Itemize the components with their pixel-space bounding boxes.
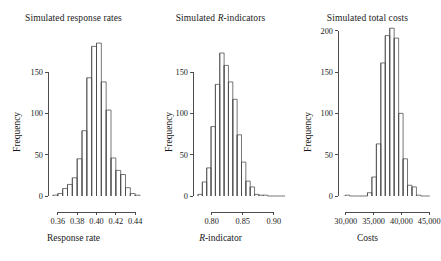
y-axis-label-response-rates: Frequency: [12, 112, 22, 152]
x-axis-label-r-indicators: R-indicator: [147, 233, 294, 243]
y-axis-tick-label: 150: [321, 68, 333, 77]
x-axis-tick-label: 40,000: [390, 217, 413, 226]
x-axis-label-total-costs: Costs: [294, 233, 441, 243]
y-axis-tick-label: 50: [325, 151, 333, 160]
x-axis-tick-label: 30,000: [334, 217, 357, 226]
x-axis-tick-label: 0.85: [235, 217, 250, 226]
y-axis-tick-label: 0: [184, 192, 188, 201]
x-axis-tick-label: 0.80: [204, 217, 219, 226]
y-axis-tick-label: 0: [39, 192, 43, 201]
plot-area-total-costs: 05010015020030,00035,00040,00045,000: [294, 0, 441, 261]
y-axis-label-total-costs: Frequency: [303, 112, 313, 152]
y-axis-tick-label: 150: [176, 68, 188, 77]
y-axis-tick-label: 50: [180, 151, 188, 160]
y-axis-tick-label: 100: [321, 109, 333, 118]
y-axis-tick-label: 150: [31, 68, 43, 77]
chart-panel-r-indicators: Simulated R-indicators 0501001500.800.85…: [147, 0, 294, 261]
x-axis-tick-label: 0.42: [109, 217, 124, 226]
plot-area-response-rates: 0501001500.360.380.400.420.44: [0, 0, 147, 261]
x-axis-label-response-rates: Response rate: [0, 233, 147, 243]
y-axis-tick-label: 100: [31, 109, 43, 118]
x-axis-tick-label: 0.40: [89, 217, 104, 226]
x-axis-tick-label: 0.38: [70, 217, 85, 226]
y-axis-tick-label: 200: [321, 27, 333, 36]
x-axis-tick-label: 0.36: [51, 217, 66, 226]
histogram-bars: [345, 28, 430, 196]
y-axis-tick-label: 0: [329, 192, 333, 201]
y-axis-tick-label: 100: [176, 109, 188, 118]
x-axis-tick-label: 45,000: [418, 217, 441, 226]
y-axis-tick-label: 50: [35, 151, 43, 160]
x-axis-tick-label: 0.44: [128, 217, 143, 226]
figure-container: Simulated response rates 0501001500.360.…: [0, 0, 441, 261]
y-axis-label-r-indicators: Frequency: [164, 112, 174, 152]
x-axis-tick-label: 0.90: [267, 217, 282, 226]
x-axis-tick-label: 35,000: [362, 217, 385, 226]
chart-panel-total-costs: Simulated total costs 05010015020030,000…: [294, 0, 441, 261]
chart-panel-response-rates: Simulated response rates 0501001500.360.…: [0, 0, 147, 261]
